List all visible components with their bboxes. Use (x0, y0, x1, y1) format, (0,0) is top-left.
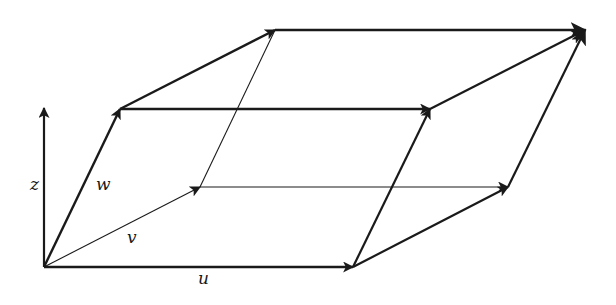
label-u: u (198, 268, 209, 288)
edge-w-to-v-plus-w (120, 30, 275, 109)
edge-u-to-u-plus-w (353, 109, 430, 267)
label-w: w (96, 174, 111, 194)
edge-u-plus-w-to-sum (430, 30, 585, 109)
parallelepiped-diagram: z w v u (0, 0, 616, 305)
label-v: v (127, 227, 137, 247)
label-z: z (29, 174, 40, 194)
vector-v (44, 187, 200, 267)
edge-u-plus-v-to-sum (508, 30, 585, 187)
edge-u-to-u-plus-v (353, 187, 508, 267)
